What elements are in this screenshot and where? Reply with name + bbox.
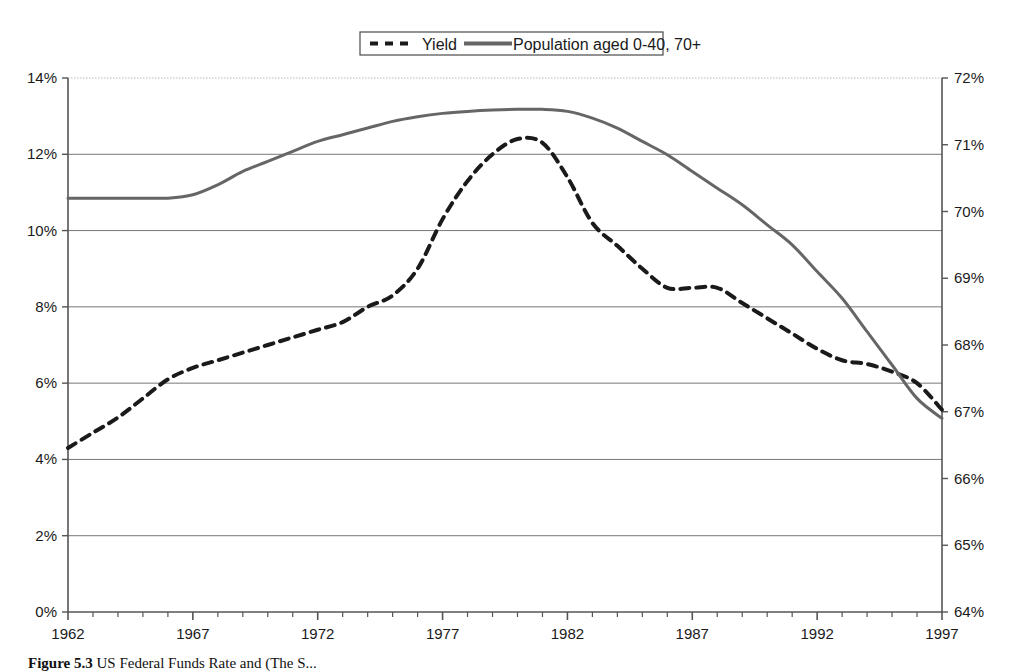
figure-caption: Figure 5.3 US Federal Funds Rate and (Th…	[28, 655, 317, 672]
left-axis-tick-label: 6%	[35, 374, 57, 391]
right-axis-tick-label: 72%	[954, 69, 984, 86]
x-axis-tick-label: 1977	[426, 625, 459, 642]
left-axis-tick-label: 12%	[27, 145, 57, 162]
right-axis-tick-label: 64%	[954, 603, 984, 620]
right-axis-tick-label: 69%	[954, 269, 984, 286]
x-axis: 19621967197219771982198719921997	[51, 612, 958, 642]
series-line-yield	[68, 138, 942, 448]
right-axis: 64%65%66%67%68%69%70%71%72%	[942, 69, 984, 620]
right-axis-tick-label: 66%	[954, 470, 984, 487]
series-line-population	[68, 109, 942, 418]
left-axis-tick-label: 0%	[35, 603, 57, 620]
right-axis-tick-label: 65%	[954, 536, 984, 553]
right-axis-tick-label: 68%	[954, 336, 984, 353]
x-axis-tick-label: 1992	[800, 625, 833, 642]
left-axis-tick-label: 8%	[35, 298, 57, 315]
figure-caption-label: Figure 5.3	[28, 655, 93, 671]
x-axis-tick-label: 1987	[676, 625, 709, 642]
x-axis-tick-label: 1962	[51, 625, 84, 642]
figure-caption-text: US Federal Funds Rate and (The S...	[96, 655, 316, 671]
right-axis-tick-label: 67%	[954, 403, 984, 420]
left-axis-tick-label: 14%	[27, 69, 57, 86]
x-axis-tick-label: 1997	[925, 625, 958, 642]
legend-label-yield: Yield	[422, 36, 457, 53]
x-axis-tick-label: 1967	[176, 625, 209, 642]
left-axis-tick-label: 10%	[27, 222, 57, 239]
x-axis-tick-label: 1972	[301, 625, 334, 642]
data-series-group	[68, 109, 942, 448]
x-axis-tick-label: 1982	[551, 625, 584, 642]
left-axis: 0%2%4%6%8%10%12%14%	[27, 69, 68, 620]
left-axis-tick-label: 2%	[35, 527, 57, 544]
right-axis-tick-label: 70%	[954, 203, 984, 220]
left-axis-tick-label: 4%	[35, 450, 57, 467]
legend: YieldPopulation aged 0-40, 70+	[360, 32, 701, 55]
right-axis-tick-label: 71%	[954, 136, 984, 153]
legend-label-population: Population aged 0-40, 70+	[513, 36, 701, 53]
